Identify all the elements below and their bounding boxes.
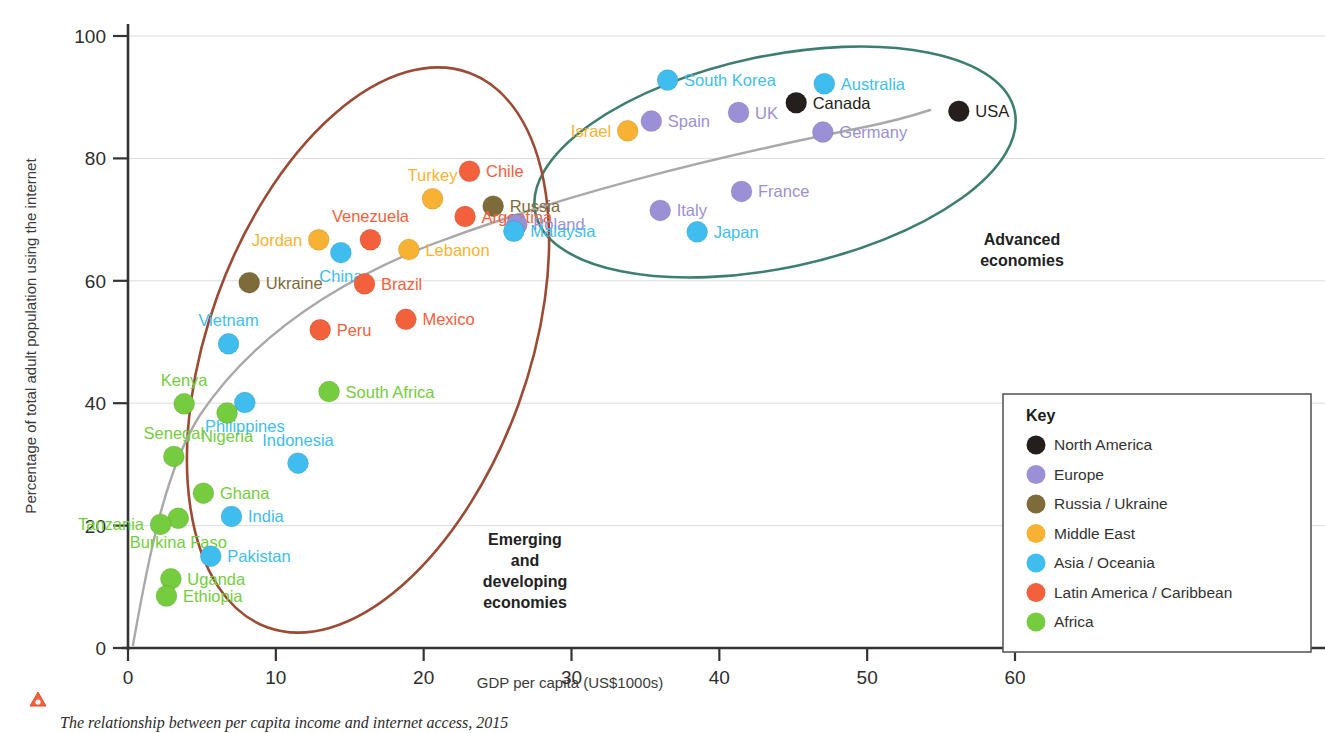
data-point-marker-chile[interactable] (459, 161, 480, 182)
data-point-marker-canada[interactable] (786, 92, 807, 113)
data-point[interactable]: Chile (459, 161, 524, 182)
legend-item[interactable]: Latin America / Caribbean (1027, 583, 1233, 602)
data-point-marker-israel[interactable] (617, 120, 638, 141)
legend-swatch-middle-east (1027, 524, 1046, 543)
legend-swatch-russia-ukraine (1027, 495, 1046, 514)
data-point[interactable]: Vietnam (198, 311, 258, 354)
data-point[interactable]: Burkina Faso (130, 508, 227, 551)
data-point[interactable]: South Africa (319, 381, 436, 402)
x-tick-label-40: 40 (709, 667, 730, 688)
data-point-marker-ethiopia[interactable] (156, 585, 177, 606)
data-point-marker-uk[interactable] (728, 102, 749, 123)
data-point-label: Italy (677, 201, 708, 219)
cluster-label-line: economies (980, 252, 1064, 269)
data-point-label: Brazil (381, 275, 422, 293)
y-tick-label-60: 60 (85, 271, 106, 292)
data-point-marker-venezuela[interactable] (360, 229, 381, 250)
data-point-marker-argentina[interactable] (455, 206, 476, 227)
data-point-label: Mexico (422, 310, 474, 328)
data-point[interactable]: Ukraine (239, 272, 323, 293)
data-point[interactable]: Kenya (161, 371, 209, 414)
data-point-marker-indonesia[interactable] (288, 453, 309, 474)
data-point-marker-nigeria[interactable] (217, 402, 238, 423)
data-point[interactable]: Peru (310, 319, 372, 340)
data-point[interactable]: Tanzania (78, 514, 171, 535)
scatter-chart-figure: 020406080100 0102030405060 Percentage of… (0, 0, 1325, 733)
caption-text: The relationship between per capita inco… (60, 714, 508, 732)
legend-item-label: North America (1054, 436, 1153, 453)
data-point-label: Canada (813, 94, 872, 112)
legend-item-label: Latin America / Caribbean (1054, 584, 1232, 601)
y-tick-label-0: 0 (95, 638, 106, 659)
data-point-marker-france[interactable] (731, 181, 752, 202)
data-point-marker-usa[interactable] (948, 101, 969, 122)
data-point-label: Pakistan (227, 547, 290, 565)
data-point-marker-jordan[interactable] (308, 229, 329, 250)
data-point-label: Indonesia (262, 431, 334, 449)
data-point[interactable]: Australia (814, 73, 906, 94)
data-point-marker-japan[interactable] (687, 221, 708, 242)
data-point-marker-kenya[interactable] (174, 393, 195, 414)
data-point[interactable]: France (731, 181, 809, 202)
data-point[interactable]: Brazil (354, 273, 422, 294)
data-point-marker-china[interactable] (330, 242, 351, 263)
data-point-marker-ghana[interactable] (193, 483, 214, 504)
data-point[interactable]: Ghana (193, 483, 270, 504)
cluster-label-advanced: Advancedeconomies (980, 231, 1064, 269)
data-point-marker-australia[interactable] (814, 73, 835, 94)
data-point-marker-south-korea[interactable] (657, 70, 678, 91)
x-tick-label-20: 20 (413, 667, 434, 688)
data-point-marker-malaysia[interactable] (503, 221, 524, 242)
data-point[interactable]: Lebanon (398, 239, 489, 260)
data-point[interactable]: Senegal (144, 424, 205, 467)
data-point[interactable]: Canada (786, 92, 872, 113)
data-point-label: Nigeria (201, 427, 254, 445)
data-point[interactable]: Germany (812, 122, 908, 143)
data-point-marker-vietnam[interactable] (218, 333, 239, 354)
legend-swatch-europe (1027, 465, 1046, 484)
data-point-marker-germany[interactable] (812, 122, 833, 143)
data-point-label: Japan (714, 223, 759, 241)
data-point-marker-tanzania[interactable] (150, 514, 171, 535)
data-point-label: Germany (839, 123, 908, 141)
data-point[interactable]: UK (728, 102, 778, 123)
data-point-marker-senegal[interactable] (163, 446, 184, 467)
data-point-label: Senegal (144, 424, 205, 442)
data-point[interactable]: USA (948, 101, 1009, 122)
data-point-label: UK (755, 104, 778, 122)
legend-item[interactable]: Africa (1027, 613, 1095, 632)
data-point-marker-spain[interactable] (641, 111, 662, 132)
data-point-marker-turkey[interactable] (422, 188, 443, 209)
data-point[interactable]: Pakistan (200, 546, 290, 567)
data-point-label: Ghana (220, 484, 270, 502)
data-point-marker-india[interactable] (221, 506, 242, 527)
data-point-marker-brazil[interactable] (354, 273, 375, 294)
data-point[interactable]: Ethiopia (156, 585, 243, 606)
data-point-marker-lebanon[interactable] (398, 239, 419, 260)
data-point[interactable]: Israel (571, 120, 638, 141)
data-point[interactable]: Indonesia (262, 431, 334, 474)
data-point-marker-pakistan[interactable] (200, 546, 221, 567)
data-point-marker-ukraine[interactable] (239, 272, 260, 293)
chart-canvas: 020406080100 0102030405060 Percentage of… (0, 0, 1325, 733)
x-tick-label-50: 50 (857, 667, 878, 688)
x-tick-label-10: 10 (265, 667, 286, 688)
legend-swatch-north-america (1027, 436, 1046, 455)
data-point[interactable]: Japan (687, 221, 759, 242)
data-point[interactable]: South Korea (657, 70, 777, 91)
legend-item[interactable]: Europe (1027, 465, 1104, 484)
data-point-label: Israel (571, 122, 611, 140)
data-point[interactable]: Italy (650, 200, 708, 221)
data-point-marker-south-africa[interactable] (319, 381, 340, 402)
legend-swatch-asia-oceania (1027, 554, 1046, 573)
data-point[interactable]: Spain (641, 111, 710, 132)
data-point-marker-mexico[interactable] (395, 309, 416, 330)
data-point[interactable]: Turkey (408, 166, 459, 209)
data-point-marker-italy[interactable] (650, 200, 671, 221)
data-point[interactable]: Jordan (252, 229, 329, 250)
data-point[interactable]: India (221, 506, 285, 527)
data-point-label: India (248, 507, 285, 525)
data-point-marker-peru[interactable] (310, 319, 331, 340)
data-point[interactable]: Mexico (395, 309, 474, 330)
data-point[interactable]: Malaysia (503, 221, 596, 242)
